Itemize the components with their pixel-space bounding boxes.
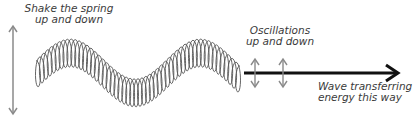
- wave-direction-arrow-icon: [244, 65, 398, 81]
- shake-label: Shake the spring up and down: [14, 3, 124, 25]
- wave-direction-label-line2: energy this way: [318, 92, 413, 103]
- wave-direction-label: Wave transferring energy this way: [318, 81, 413, 103]
- shake-arrow-icon: [9, 26, 17, 114]
- spring-coil: [35, 39, 240, 107]
- oscillations-label: Oscillations up and down: [240, 25, 320, 47]
- oscillations-label-line2: up and down: [240, 36, 320, 47]
- shake-label-line2: up and down: [14, 14, 124, 25]
